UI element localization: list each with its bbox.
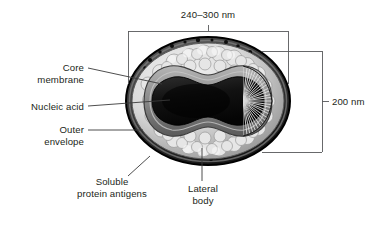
core-inner-shadow (162, 84, 230, 118)
callout-nucleic-acid-line1: Nucleic acid (8, 101, 84, 113)
callout-lateral-body-line2: body (175, 195, 231, 207)
callout-soluble-protein-antigens-line2: protein antigens (58, 188, 166, 200)
callout-outer-envelope-line2: envelope (8, 136, 84, 148)
callout-soluble-protein-antigens: Soluble protein antigens (58, 176, 166, 199)
callout-outer-envelope: Outer envelope (8, 124, 84, 147)
poxvirus-diagram: Core membrane Nucleic acid Outer envelop… (0, 0, 388, 226)
callout-core-membrane-line2: membrane (8, 74, 84, 86)
callout-lateral-body: Lateral body (175, 183, 231, 206)
dimension-label-height: 200 nm (332, 96, 386, 108)
callout-core-membrane-line1: Core (8, 62, 84, 74)
dimension-label-width: 240–300 nm (158, 9, 258, 21)
callout-outer-envelope-line1: Outer (8, 124, 84, 136)
callout-core-membrane: Core membrane (8, 62, 84, 85)
leader-soluble-antigens (128, 156, 150, 176)
callout-nucleic-acid: Nucleic acid (8, 101, 84, 113)
callout-lateral-body-line1: Lateral (175, 183, 231, 195)
callout-soluble-protein-antigens-line1: Soluble (58, 176, 166, 188)
